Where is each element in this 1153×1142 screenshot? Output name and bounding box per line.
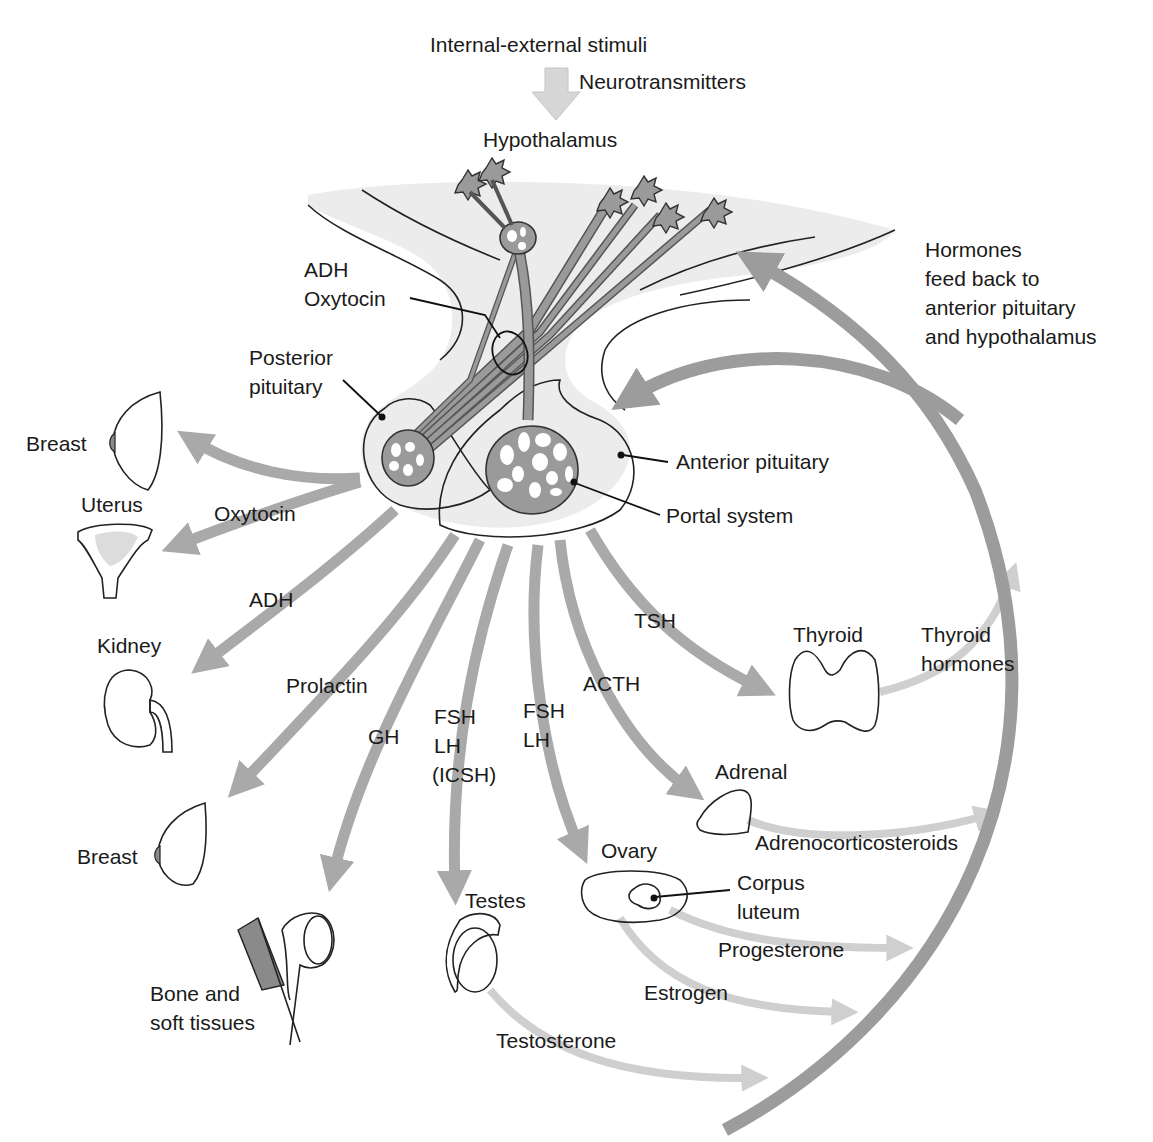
label-feedback-1: Hormones	[925, 238, 1022, 261]
label-oxytocin: Oxytocin	[214, 502, 296, 525]
label-luteum: luteum	[737, 900, 800, 923]
arrow-adh-kidney	[205, 510, 395, 663]
label-posterior-1: Posterior	[249, 346, 333, 369]
label-estrogen: Estrogen	[644, 981, 728, 1004]
stimulus-arrow	[532, 68, 580, 120]
label-gh: GH	[368, 725, 400, 748]
kidney-organ	[104, 670, 172, 752]
hypothalamic-pituitary-diagram: Internal-external stimuli Neurotransmitt…	[0, 0, 1153, 1142]
label-acth: ACTH	[583, 672, 640, 695]
label-oxytocin-posterior: Oxytocin	[304, 287, 386, 310]
label-fsh-female: FSH	[523, 699, 565, 722]
adrenal-organ	[697, 790, 751, 834]
label-adh: ADH	[249, 588, 293, 611]
label-bone-1: Bone and	[150, 982, 240, 1005]
label-icsh: (ICSH)	[432, 763, 496, 786]
label-anterior-pituitary: Anterior pituitary	[676, 450, 829, 473]
label-progesterone: Progesterone	[718, 938, 844, 961]
label-corpus: Corpus	[737, 871, 805, 894]
label-prolactin: Prolactin	[286, 674, 368, 697]
label-thyroid: Thyroid	[793, 623, 863, 646]
label-bone-2: soft tissues	[150, 1011, 255, 1034]
label-lh-male: LH	[434, 734, 461, 757]
testes-organ	[446, 914, 500, 992]
label-tsh: TSH	[634, 609, 676, 632]
label-testes: Testes	[465, 889, 526, 912]
label-stimuli: Internal-external stimuli	[430, 33, 647, 56]
label-lh-female: LH	[523, 728, 550, 751]
label-uterus: Uterus	[81, 493, 143, 516]
label-breast-bottom: Breast	[77, 845, 138, 868]
label-adh-posterior: ADH	[304, 258, 348, 281]
label-posterior-2: pituitary	[249, 375, 323, 398]
label-adrenal: Adrenal	[715, 760, 787, 783]
breast-top-organ	[110, 392, 162, 490]
feedback-arc-inner	[630, 359, 960, 420]
label-neurotransmitters: Neurotransmitters	[579, 70, 746, 93]
label-hypothalamus: Hypothalamus	[483, 128, 617, 151]
label-kidney: Kidney	[97, 634, 162, 657]
label-ovary: Ovary	[601, 839, 658, 862]
label-breast-top: Breast	[26, 432, 87, 455]
breast-bottom-organ	[155, 803, 206, 885]
feedback-arc-outer	[725, 262, 1012, 1130]
label-thyroid-hormones-1: Thyroid	[921, 623, 991, 646]
label-fsh-male: FSH	[434, 705, 476, 728]
arrow-oxytocin-breast	[192, 440, 360, 479]
label-thyroid-hormones-2: hormones	[921, 652, 1014, 675]
label-testosterone: Testosterone	[496, 1029, 616, 1052]
label-portal-system: Portal system	[666, 504, 793, 527]
label-adrenocorticosteroids: Adrenocorticosteroids	[755, 831, 958, 854]
thyroid-organ	[789, 651, 878, 731]
label-feedback-4: and hypothalamus	[925, 325, 1097, 348]
label-feedback-3: anterior pituitary	[925, 296, 1076, 319]
label-feedback-2: feed back to	[925, 267, 1039, 290]
uterus-organ	[78, 524, 152, 598]
